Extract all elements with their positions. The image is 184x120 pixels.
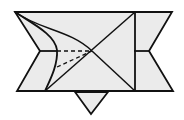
bottom-flap <box>75 92 108 114</box>
origami-diagram <box>0 0 184 120</box>
